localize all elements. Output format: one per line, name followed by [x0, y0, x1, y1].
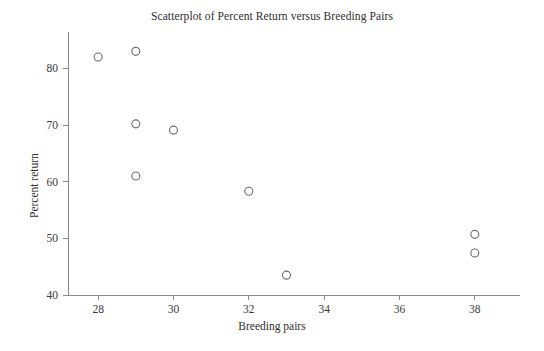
data-point-marker	[132, 47, 140, 55]
y-tick-label: 50	[34, 232, 58, 244]
scatterplot-figure: Scatterplot of Percent Return versus Bre…	[0, 0, 544, 351]
axes	[68, 32, 520, 295]
x-tick-label: 32	[243, 303, 255, 315]
data-points	[94, 47, 479, 279]
y-tick-label: 70	[34, 119, 58, 131]
x-axis-title: Breeding pairs	[0, 320, 544, 332]
x-tick-label: 28	[92, 303, 104, 315]
data-point-marker	[245, 187, 253, 195]
data-point-marker	[169, 126, 177, 134]
axis-ticks	[63, 68, 475, 300]
x-tick-label: 30	[168, 303, 180, 315]
data-point-marker	[94, 53, 102, 61]
y-tick-label: 40	[34, 289, 58, 301]
data-point-marker	[132, 120, 140, 128]
data-point-marker	[471, 230, 479, 238]
x-tick-label: 36	[394, 303, 406, 315]
data-point-marker	[132, 172, 140, 180]
data-point-marker	[471, 249, 479, 257]
y-axis-title: Percent return	[28, 153, 40, 218]
plot-canvas	[0, 0, 544, 351]
y-tick-label: 80	[34, 62, 58, 74]
x-tick-label: 38	[469, 303, 481, 315]
data-point-marker	[282, 271, 290, 279]
x-tick-label: 34	[318, 303, 330, 315]
